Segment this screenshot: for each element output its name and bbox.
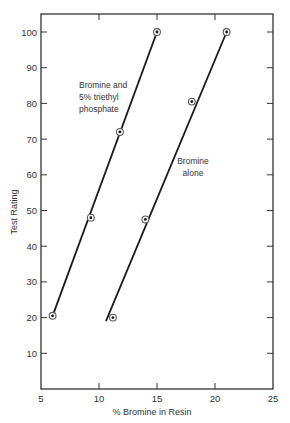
chart: 102030405060708090100 510152025 Bromine … xyxy=(0,0,290,423)
y-tick-label: 40 xyxy=(26,241,37,252)
x-tick-label: 10 xyxy=(94,393,105,404)
y-tick-label: 70 xyxy=(26,134,37,145)
y-axis: 102030405060708090100 xyxy=(21,27,273,359)
series-1-label: Bromine and5% triethylphosphate xyxy=(79,80,127,114)
y-tick-label: 30 xyxy=(26,276,37,287)
plot-frame xyxy=(41,14,273,389)
data-point-dot xyxy=(51,314,54,317)
y-tick-label: 10 xyxy=(26,348,37,359)
y-tick-label: 20 xyxy=(26,312,37,323)
series-1 xyxy=(49,29,160,320)
data-point-dot xyxy=(144,218,147,221)
data-point-dot xyxy=(190,100,193,103)
x-axis-title: % Bromine in Resin xyxy=(112,407,191,417)
x-axis: 510152025 xyxy=(38,14,278,404)
y-tick-label: 60 xyxy=(26,169,37,180)
fit-line xyxy=(53,32,157,316)
y-tick-label: 100 xyxy=(21,27,37,38)
data-point-dot xyxy=(89,216,92,219)
x-tick-label: 5 xyxy=(38,393,43,404)
y-tick-label: 90 xyxy=(26,62,37,73)
fit-line xyxy=(106,32,227,321)
x-tick-label: 25 xyxy=(268,393,279,404)
data-point-dot xyxy=(225,31,228,34)
y-axis-title: Test Rating xyxy=(9,189,19,234)
x-tick-label: 15 xyxy=(152,393,163,404)
y-tick-label: 80 xyxy=(26,98,37,109)
data-point-dot xyxy=(156,31,159,34)
data-point-dot xyxy=(118,131,121,134)
y-tick-label: 50 xyxy=(26,205,37,216)
plot-border xyxy=(41,14,273,389)
series-2-label: Brominealone xyxy=(177,156,209,178)
x-tick-label: 20 xyxy=(210,393,221,404)
annotations: Bromine and5% triethylphosphateBromineal… xyxy=(79,80,209,178)
series-2 xyxy=(106,29,230,322)
data-point-dot xyxy=(112,316,115,319)
